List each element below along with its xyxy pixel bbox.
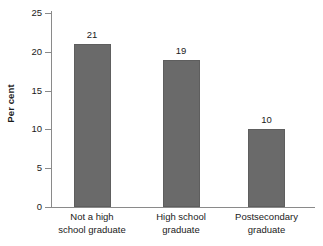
y-axis-tick — [45, 168, 51, 169]
y-axis-tick-label: 25 — [31, 8, 42, 18]
x-axis-line — [51, 207, 315, 208]
y-axis-tick-label: 10 — [31, 124, 42, 134]
bar[interactable] — [248, 129, 285, 207]
y-axis-tick-label: 15 — [31, 86, 42, 96]
bar[interactable] — [74, 44, 111, 207]
category-label-line: graduate — [212, 224, 322, 237]
bar[interactable] — [163, 60, 200, 207]
x-axis-category-label: Postsecondarygraduate — [212, 211, 322, 236]
category-label-line: Postsecondary — [212, 211, 322, 224]
y-axis-tick-label: 20 — [31, 47, 42, 57]
bar-value-label: 19 — [151, 46, 211, 56]
y-axis-tick — [45, 91, 51, 92]
y-axis-tick-label: 5 — [37, 163, 42, 173]
y-axis-tick — [45, 129, 51, 130]
bar-chart: Per cent 0510152025 211910 Not a highsch… — [0, 0, 323, 246]
y-axis-tick — [45, 52, 51, 53]
y-axis-tick — [45, 13, 51, 14]
y-axis-title-text: Per cent — [5, 84, 16, 122]
y-axis-tick — [45, 207, 51, 208]
bar-value-label: 21 — [62, 30, 122, 40]
y-axis-title: Per cent — [0, 0, 20, 207]
y-axis-line — [51, 11, 52, 208]
bar-value-label: 10 — [237, 115, 297, 125]
